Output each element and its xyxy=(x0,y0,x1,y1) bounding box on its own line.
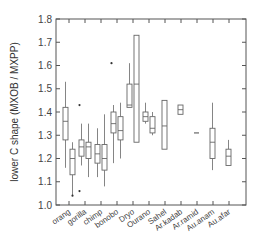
y-tick-label: 1.1 xyxy=(38,176,52,187)
box-ourano-2 xyxy=(150,112,155,135)
box-iqr xyxy=(102,145,107,171)
y-tick-label: 1.2 xyxy=(38,153,52,164)
box-iqr xyxy=(63,107,68,140)
box-iqr xyxy=(162,100,167,149)
x-axis-ticks: oranggorillachimpbonoboDryoOuranoSahelAr… xyxy=(50,19,232,233)
box-au-anam-1 xyxy=(210,103,215,170)
y-tick-label: 1.3 xyxy=(38,130,52,141)
box-chimp-1 xyxy=(95,128,100,177)
box-sahel-1 xyxy=(162,100,167,149)
box-orang-2 xyxy=(70,142,75,197)
box-iqr xyxy=(86,142,91,158)
box-iqr xyxy=(210,128,215,158)
outlier-point xyxy=(78,190,80,192)
box-iqr xyxy=(118,117,123,140)
box-iqr xyxy=(111,112,116,133)
outlier-point xyxy=(78,104,80,106)
y-axis-title: lower C shape (MXOB / MXPP) xyxy=(9,42,20,181)
box-gorilla-2 xyxy=(86,124,91,177)
y-tick-label: 1.8 xyxy=(38,14,52,25)
box-ar-kadab-1 xyxy=(178,105,183,114)
box-plot-chart: 1.01.11.21.31.41.51.61.71.8 oranggorilla… xyxy=(0,0,263,246)
y-axis-ticks: 1.01.11.21.31.41.51.61.71.8 xyxy=(38,14,246,211)
plot-frame xyxy=(56,19,246,205)
outlier-point xyxy=(71,195,73,197)
boxes xyxy=(63,35,231,197)
box-gorilla-1 xyxy=(78,104,84,192)
box-dryo-1 xyxy=(127,63,132,107)
box-orang-1 xyxy=(63,82,68,168)
y-tick-label: 1.0 xyxy=(38,200,52,211)
box-dryo-2 xyxy=(134,35,139,142)
box-iqr xyxy=(79,140,84,156)
box-iqr xyxy=(226,149,231,165)
y-tick-label: 1.6 xyxy=(38,60,52,71)
outlier-point xyxy=(110,62,112,64)
axes xyxy=(56,19,246,205)
y-tick-label: 1.4 xyxy=(38,107,52,118)
y-tick-label: 1.5 xyxy=(38,83,52,94)
box-iqr xyxy=(127,84,132,107)
box-bonobo-2 xyxy=(118,103,123,159)
box-au-afar-1 xyxy=(226,140,231,166)
box-iqr xyxy=(70,149,75,175)
y-tick-label: 1.7 xyxy=(38,37,52,48)
box-bonobo-1 xyxy=(110,62,116,163)
box-iqr xyxy=(134,35,139,142)
box-ourano-1 xyxy=(143,103,148,124)
box-iqr xyxy=(150,117,155,133)
box-chimp-2 xyxy=(102,114,107,186)
